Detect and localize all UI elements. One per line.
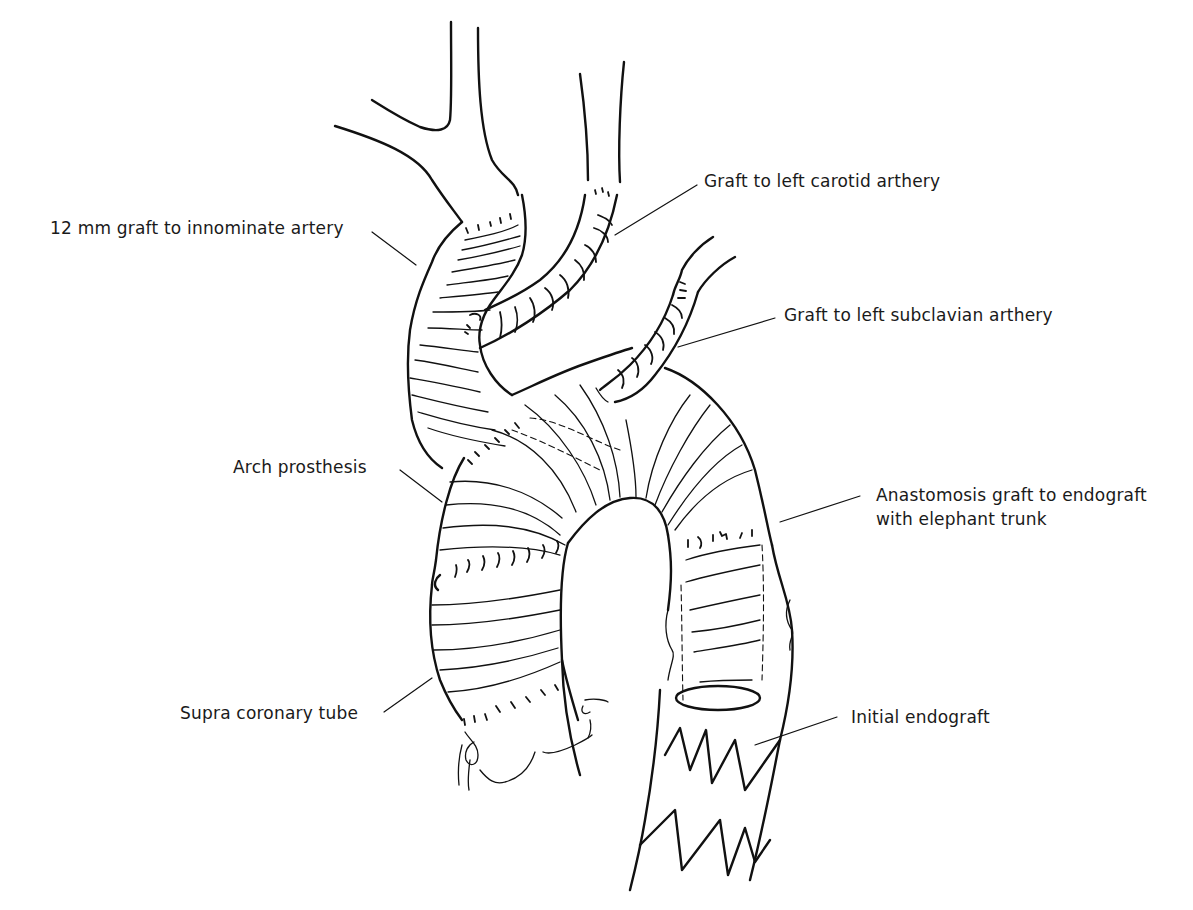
leader-carotid bbox=[615, 185, 697, 235]
leader-arch bbox=[400, 470, 442, 502]
supra-coronary-tube bbox=[430, 575, 608, 790]
label-anastomosis-line2: with elephant trunk bbox=[876, 509, 1047, 530]
label-supra-coronary-tube: Supra coronary tube bbox=[180, 703, 358, 724]
label-initial-endograft: Initial endograft bbox=[851, 707, 990, 728]
leader-endograft bbox=[755, 717, 837, 745]
leader-subclavian bbox=[678, 318, 775, 347]
label-arch-prosthesis: Arch prosthesis bbox=[233, 457, 367, 478]
leader-innominate bbox=[372, 232, 416, 265]
native-innominate-branches bbox=[335, 22, 518, 222]
aortic-arch-illustration bbox=[0, 0, 1193, 910]
label-carotid-graft: Graft to left carotid arthery bbox=[704, 171, 940, 192]
leader-anastomosis bbox=[780, 496, 860, 522]
subclavian-graft bbox=[596, 237, 735, 402]
descending-aorta bbox=[630, 530, 793, 890]
label-innominate-graft: 12 mm graft to innominate artery bbox=[50, 218, 344, 239]
label-anastomosis-line1: Anastomosis graft to endograft bbox=[876, 485, 1147, 506]
label-subclavian-graft: Graft to left subclavian arthery bbox=[784, 305, 1053, 326]
innominate-graft bbox=[408, 195, 526, 468]
leader-supra bbox=[384, 678, 432, 712]
